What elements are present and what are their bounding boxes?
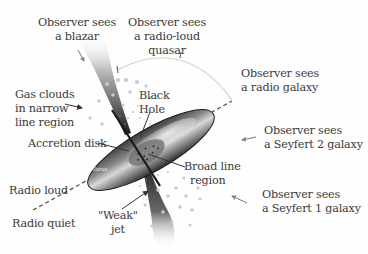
label-radio-quiet: Radio quiet xyxy=(12,217,75,231)
viewing-angle-arc xyxy=(117,58,232,100)
seyfert1-arrow xyxy=(232,196,247,203)
label-weak-jet: "Weak" jet xyxy=(98,209,138,237)
label-broad-line-region: Broad line region xyxy=(184,160,241,188)
label-observer-radio-loud-quasar: Observer sees a radio-loud quasar xyxy=(128,16,206,58)
label-gas-clouds-narrow-line-region: Gas clouds in narrow line region xyxy=(15,88,75,130)
blazar-arrow xyxy=(78,50,84,61)
label-black-hole: Black Hole xyxy=(139,89,170,117)
label-observer-seyfert-1: Observer sees a Seyfert 1 galaxy xyxy=(262,188,361,216)
label-torus: Torus xyxy=(92,166,108,172)
label-accretion-disk: Accretion disk xyxy=(28,137,107,151)
seyfert2-arrow xyxy=(242,137,256,140)
label-observer-radio-galaxy: Observer sees a radio galaxy xyxy=(241,67,319,95)
label-observer-seyfert-2: Observer sees a Seyfert 2 galaxy xyxy=(264,124,363,152)
agn-diagram: Observer sees a blazar Observer sees a r… xyxy=(0,0,368,254)
upper-jet xyxy=(78,35,131,135)
label-radio-loud: Radio loud xyxy=(9,184,68,198)
label-observer-blazar: Observer sees a blazar xyxy=(38,16,116,44)
